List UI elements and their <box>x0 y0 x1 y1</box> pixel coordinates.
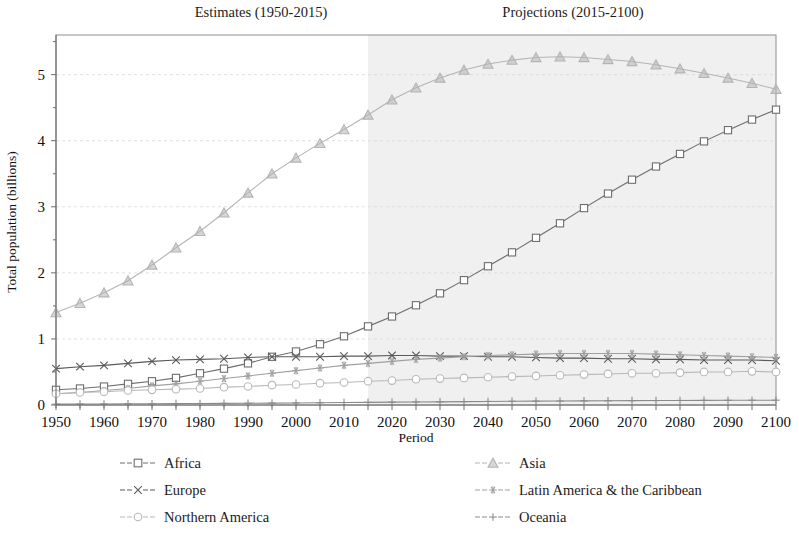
circle-icon <box>268 381 276 389</box>
legend-label: Oceania <box>519 509 567 525</box>
circle-icon <box>604 370 612 378</box>
circle-icon <box>76 389 84 397</box>
x-tick-label: 1980 <box>185 414 215 430</box>
x-tick-label: 2070 <box>617 414 647 430</box>
y-tick-label: 2 <box>38 265 46 281</box>
square-icon <box>628 176 635 183</box>
y-axis-title: Total population (billions) <box>4 151 19 293</box>
circle-icon <box>340 379 348 387</box>
circle-icon <box>364 377 372 385</box>
legend-label: Africa <box>164 455 202 471</box>
circle-icon <box>508 373 516 381</box>
legend-label: Asia <box>519 455 546 471</box>
circle-icon <box>580 371 588 379</box>
square-icon <box>700 138 707 145</box>
square-icon <box>436 290 443 297</box>
square-icon <box>340 333 347 340</box>
projections-annotation-label: Projections (2015-2100) <box>502 4 644 21</box>
projection-shaded-region <box>368 35 776 405</box>
square-icon <box>388 313 395 320</box>
legend-label: Europe <box>164 482 206 498</box>
x-tick-label: 2000 <box>281 414 311 430</box>
circle-icon <box>436 375 444 383</box>
square-icon <box>724 127 731 134</box>
circle-icon <box>748 368 756 376</box>
population-line-chart: Estimates (1950-2015) Projections (2015-… <box>0 0 799 537</box>
x-tick-label: 1960 <box>89 414 119 430</box>
x-tick-label: 2100 <box>761 414 791 430</box>
circle-icon <box>244 383 252 391</box>
square-icon <box>196 370 203 377</box>
square-icon <box>134 459 142 467</box>
circle-icon <box>196 385 204 393</box>
circle-icon <box>556 371 564 379</box>
circle-icon <box>100 388 108 396</box>
square-icon <box>220 365 227 372</box>
x-tick-label: 1970 <box>137 414 167 430</box>
x-axis-title: Period <box>398 430 433 445</box>
square-icon <box>532 234 539 241</box>
circle-icon <box>134 513 142 521</box>
x-tick-label: 2010 <box>329 414 359 430</box>
square-icon <box>484 263 491 270</box>
square-icon <box>508 249 515 256</box>
x-tick-label: 2040 <box>473 414 503 430</box>
x-tick-label: 2080 <box>665 414 695 430</box>
square-icon <box>556 220 563 227</box>
chart-canvas: Estimates (1950-2015) Projections (2015-… <box>0 0 799 537</box>
circle-icon <box>676 369 684 377</box>
square-icon <box>652 163 659 170</box>
circle-icon <box>148 386 156 394</box>
circle-icon <box>292 381 300 389</box>
square-icon <box>604 190 611 197</box>
square-icon <box>244 360 251 367</box>
square-icon <box>748 116 755 123</box>
y-tick-label: 0 <box>38 397 46 413</box>
circle-icon <box>652 369 660 377</box>
legend-label: Northern America <box>164 509 270 525</box>
circle-icon <box>700 368 708 376</box>
y-tick-label: 5 <box>38 67 46 83</box>
x-tick-label: 2050 <box>521 414 551 430</box>
square-icon <box>676 150 683 157</box>
square-icon <box>772 106 779 113</box>
circle-icon <box>772 368 780 376</box>
circle-icon <box>124 387 132 395</box>
y-tick-label: 4 <box>38 133 46 149</box>
y-tick-label: 3 <box>38 199 46 215</box>
legend-label: Latin America & the Caribbean <box>519 482 703 498</box>
circle-icon <box>172 385 180 393</box>
x-tick-label: 2030 <box>425 414 455 430</box>
circle-icon <box>724 368 732 376</box>
circle-icon <box>628 369 636 377</box>
x-tick-label: 2060 <box>569 414 599 430</box>
square-icon <box>460 277 467 284</box>
square-icon <box>580 205 587 212</box>
estimates-annotation-label: Estimates (1950-2015) <box>195 4 328 21</box>
circle-icon <box>460 374 468 382</box>
circle-icon <box>484 373 492 381</box>
x-tick-label: 2090 <box>713 414 743 430</box>
square-icon <box>364 323 371 330</box>
circle-icon <box>532 372 540 380</box>
circle-icon <box>220 383 228 391</box>
square-icon <box>412 302 419 309</box>
circle-icon <box>412 375 420 383</box>
square-icon <box>316 341 323 348</box>
x-tick-label: 1950 <box>41 414 71 430</box>
y-tick-label: 1 <box>38 331 46 347</box>
x-tick-label: 2020 <box>377 414 407 430</box>
x-tick-label: 1990 <box>233 414 263 430</box>
circle-icon <box>316 379 324 387</box>
circle-icon <box>388 377 396 385</box>
